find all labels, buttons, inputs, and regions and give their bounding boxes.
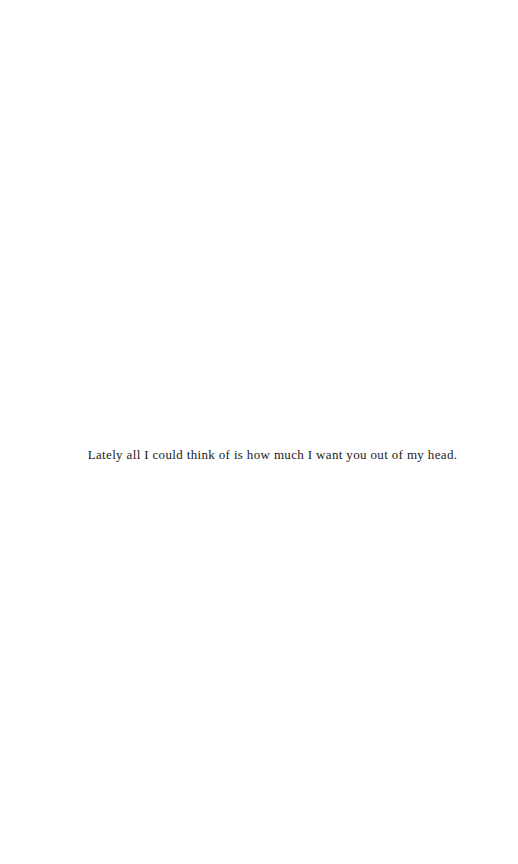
document-page: Lately all I could think of is how much …	[0, 0, 518, 864]
quote-text: Lately all I could think of is how much …	[0, 446, 518, 464]
